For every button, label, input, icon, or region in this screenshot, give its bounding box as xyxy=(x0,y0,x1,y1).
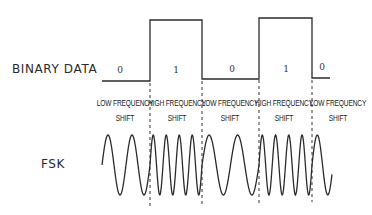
diagram-graphics xyxy=(0,0,372,215)
binary-data-waveform xyxy=(102,18,330,81)
fsk-waveform xyxy=(102,135,332,195)
fsk-diagram: BINARY DATA FSK 0 1 0 1 0 LOW FREQUENCY … xyxy=(0,0,372,215)
